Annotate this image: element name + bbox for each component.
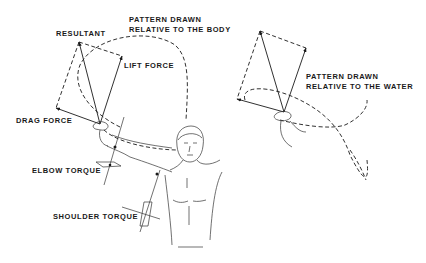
lift-force-arrow xyxy=(100,56,122,124)
right-force-vectors xyxy=(237,31,306,112)
diagram-drawing xyxy=(0,0,426,263)
label-pattern-water-1: PATTERN DRAWN xyxy=(306,72,379,81)
left-force-vectors xyxy=(56,42,122,124)
water-pattern-path xyxy=(244,89,367,177)
label-drag-force: DRAG FORCE xyxy=(16,116,72,125)
swimming-force-diagram: PATTERN DRAWN RELATIVE TO THE BODY RESUL… xyxy=(0,0,426,263)
label-lift-force: LIFT FORCE xyxy=(124,61,174,70)
body-pattern-path xyxy=(78,36,188,127)
right-hand xyxy=(274,111,291,120)
head xyxy=(177,126,204,162)
label-shoulder-torque: SHOULDER TORQUE xyxy=(53,212,138,221)
label-pattern-water-2: RELATIVE TO THE WATER xyxy=(306,82,413,91)
label-elbow-torque: ELBOW TORQUE xyxy=(32,166,101,175)
label-pattern-body-1: PATTERN DRAWN xyxy=(129,15,202,24)
label-resultant: RESULTANT xyxy=(56,29,106,38)
swimmer-figure xyxy=(165,126,222,247)
label-pattern-body-2: RELATIVE TO THE BODY xyxy=(129,25,231,34)
